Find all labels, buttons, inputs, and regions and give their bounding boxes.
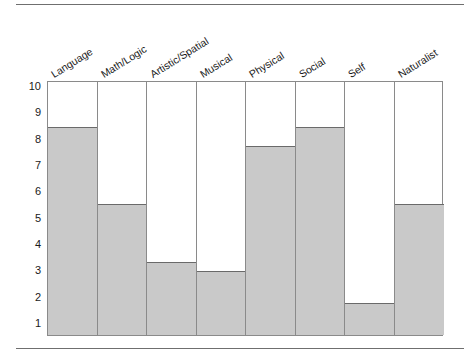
y-tick-label-8: 8: [35, 134, 41, 145]
bar-column-language[interactable]: [48, 82, 98, 335]
bar-column-physical[interactable]: [246, 82, 296, 335]
bar-fill: [296, 127, 345, 336]
bar-fill: [395, 204, 445, 335]
category-label-physical: Physical: [247, 50, 286, 80]
top-divider-rule: [16, 4, 464, 5]
category-label-self: Self: [346, 61, 367, 80]
y-axis-tick-labels: 10987654321: [0, 0, 47, 354]
bar-column-math-logic[interactable]: [98, 82, 148, 335]
y-tick-label-7: 7: [35, 160, 41, 171]
bar-fill: [98, 204, 147, 335]
y-tick-label-10: 10: [29, 81, 41, 92]
bar-fill: [197, 271, 246, 335]
plot-area: [47, 81, 443, 336]
category-label-social: Social: [297, 56, 327, 80]
bar-fill: [246, 146, 295, 335]
bottom-divider-rule: [16, 348, 464, 349]
y-tick-label-9: 9: [35, 107, 41, 118]
bar-column-social[interactable]: [296, 82, 346, 335]
bar-column-artistic-spatial[interactable]: [147, 82, 197, 335]
bar-fill: [147, 262, 196, 335]
y-tick-label-6: 6: [35, 186, 41, 197]
y-tick-label-5: 5: [35, 213, 41, 224]
category-label-musical: Musical: [198, 52, 234, 80]
category-label-naturalist: Naturalist: [396, 47, 439, 80]
y-tick-label-2: 2: [35, 292, 41, 303]
category-label-math-logic: Math/Logic: [99, 43, 148, 80]
y-tick-label-3: 3: [35, 265, 41, 276]
chart-figure: 10987654321 LanguageMath/LogicArtistic/S…: [0, 0, 476, 354]
bar-fill: [48, 127, 97, 336]
y-tick-label-4: 4: [35, 239, 41, 250]
bar-column-musical[interactable]: [197, 82, 247, 335]
bar-column-self[interactable]: [345, 82, 395, 335]
y-tick-label-1: 1: [35, 318, 41, 329]
bar-fill: [345, 303, 394, 335]
category-label-language: Language: [49, 46, 94, 80]
bar-column-naturalist[interactable]: [395, 82, 445, 335]
